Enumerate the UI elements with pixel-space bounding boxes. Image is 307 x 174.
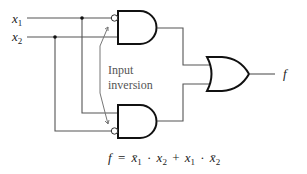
junction-dot-x1	[80, 16, 84, 20]
boolean-equation: f = x̄1 · x2 + x1 · x̄2	[108, 150, 220, 168]
output-label-f: f	[283, 66, 289, 81]
or-gate	[207, 57, 249, 91]
wire-and-bottom-out	[157, 84, 212, 121]
wire-x2-branch	[55, 37, 111, 131]
annotation-line2: inversion	[108, 78, 153, 92]
inversion-bubble-top	[111, 15, 117, 21]
annotation-arrow-bottom	[100, 93, 108, 124]
junction-dot-x2	[53, 35, 57, 39]
logic-diagram: x1 x2 f Input inversion f = x̄1 · x2 + x…	[0, 0, 307, 174]
and-gate-bottom	[118, 105, 157, 138]
inversion-bubble-bottom	[111, 128, 117, 134]
input-label-x2: x2	[11, 29, 22, 46]
wire-and-top-out	[157, 28, 212, 65]
input-label-x1: x1	[11, 11, 22, 28]
and-gate-top	[118, 11, 157, 44]
annotation-line1: Input	[108, 63, 134, 77]
